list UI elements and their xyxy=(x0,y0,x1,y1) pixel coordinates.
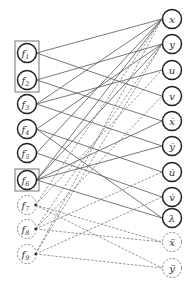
node-v: v xyxy=(163,87,182,106)
edge-dashed-f9-vd xyxy=(36,197,163,254)
node-yd: ẏ xyxy=(163,137,182,156)
node-label: ẋ xyxy=(169,116,175,127)
node-vd: v̇ xyxy=(163,188,182,207)
edge-dashed-f7-x xyxy=(36,19,163,205)
node-label: u xyxy=(169,65,175,76)
graph-svg: f1f2f3f4f5f6f7f8f9xyuvẋẏu̇v̇λẍÿ xyxy=(0,0,196,298)
node-f9: f9 xyxy=(18,245,37,264)
edge-solid-f3-x xyxy=(37,19,163,104)
node-ydd: ÿ xyxy=(163,259,182,278)
groups-layer xyxy=(15,41,39,191)
edge-solid-f6-x xyxy=(37,19,163,180)
node-f8: f8 xyxy=(18,220,37,239)
edge-dashed-f8-xdd xyxy=(36,229,163,242)
edge-dashed-f7-u xyxy=(36,70,163,205)
node-label: v xyxy=(169,91,175,102)
edges-layer xyxy=(36,19,163,268)
node-f5: f5 xyxy=(18,144,37,163)
node-label: ẏ xyxy=(168,141,175,152)
edge-solid-f6-xd xyxy=(37,121,163,180)
node-xdd: ẍ xyxy=(163,233,182,252)
node-f2: f2 xyxy=(18,71,37,90)
node-x: x xyxy=(163,10,182,29)
edge-dashed-f9-x xyxy=(36,19,163,254)
edge-origin-dot xyxy=(34,253,36,255)
node-u: u xyxy=(163,61,182,80)
node-ud: u̇ xyxy=(163,163,182,182)
edge-solid-f4-lam xyxy=(37,129,163,218)
node-f7: f7 xyxy=(18,196,37,215)
edge-solid-f3-yd xyxy=(37,104,163,146)
node-f3: f3 xyxy=(18,95,37,114)
node-xd: ẋ xyxy=(163,112,182,131)
node-label: y xyxy=(168,39,175,50)
edge-dashed-f8-ud xyxy=(36,172,163,229)
node-y: y xyxy=(163,35,182,54)
edge-dashed-f7-xdd xyxy=(36,205,163,242)
node-f1: f1 xyxy=(18,44,37,63)
bipartite-graph-diagram: f1f2f3f4f5f6f7f8f9xyuvẋẏu̇v̇λẍÿ xyxy=(0,0,196,298)
edge-origin-dot xyxy=(34,228,36,230)
edge-solid-f6-lam xyxy=(37,180,163,218)
edge-solid-f1-x xyxy=(37,19,163,53)
edge-dashed-f9-y xyxy=(36,44,163,254)
node-label: ÿ xyxy=(168,263,175,274)
node-label: ẍ xyxy=(169,237,175,248)
edge-origin-dot xyxy=(34,204,36,206)
node-f4: f4 xyxy=(18,120,37,139)
node-label: x xyxy=(169,14,175,25)
edge-solid-f6-y xyxy=(37,44,163,180)
edge-dashed-f8-v xyxy=(36,96,163,229)
node-f6: f6 xyxy=(18,171,37,190)
node-label: u̇ xyxy=(169,167,175,178)
node-label: v̇ xyxy=(169,192,175,203)
node-label: λ xyxy=(168,213,175,224)
edge-dashed-f9-ydd xyxy=(36,254,163,268)
node-lam: λ xyxy=(163,209,182,228)
